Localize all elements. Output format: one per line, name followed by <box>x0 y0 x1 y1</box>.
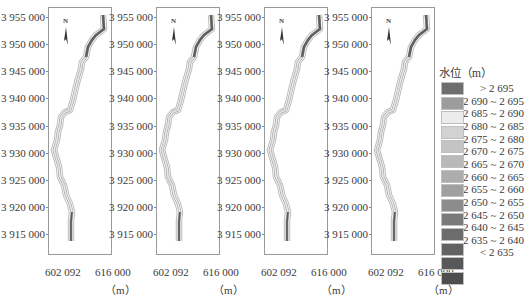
x-tick-label-left: 602 092 <box>368 266 404 278</box>
legend-swatch <box>441 272 464 285</box>
legend-label: 2 685 ~ 2 690 <box>463 107 524 119</box>
legend-label: < 2 635 <box>480 246 514 258</box>
legend-swatch <box>441 97 464 110</box>
legend-label: 2 680 ~ 2 685 <box>463 120 524 132</box>
legend-swatch <box>441 213 464 226</box>
north-arrow-icon: N <box>386 17 391 25</box>
legend-swatch <box>441 243 464 256</box>
legend-swatch <box>441 199 464 212</box>
legend-swatch <box>441 155 464 168</box>
legend-label: 2 690 ~ 2 695 <box>463 95 524 107</box>
legend-label: 2 655 ~ 2 660 <box>463 183 524 195</box>
legend-label: 2 650 ~ 2 655 <box>463 196 524 208</box>
legend-swatch <box>441 228 464 241</box>
legend-swatch <box>441 111 464 124</box>
legend-swatch <box>441 184 464 197</box>
legend <box>441 82 465 260</box>
legend-label: 2 675 ~ 2 680 <box>463 133 524 145</box>
legend-swatch <box>441 126 464 139</box>
legend-swatch <box>441 170 464 183</box>
legend-title: 水位（m） <box>439 64 492 80</box>
legend-swatch <box>441 257 464 270</box>
legend-label: 2 660 ~ 2 665 <box>463 171 524 183</box>
legend-label: 2 670 ~ 2 675 <box>463 145 524 157</box>
legend-label: 2 640 ~ 2 645 <box>463 221 524 233</box>
legend-label: > 2 695 <box>480 82 514 94</box>
legend-label: 2 665 ~ 2 670 <box>463 158 524 170</box>
legend-label: 2 635 ~ 2 640 <box>463 234 524 246</box>
legend-swatch <box>441 82 464 95</box>
legend-swatch <box>441 140 464 153</box>
legend-label: 2 645 ~ 2 650 <box>463 209 524 221</box>
